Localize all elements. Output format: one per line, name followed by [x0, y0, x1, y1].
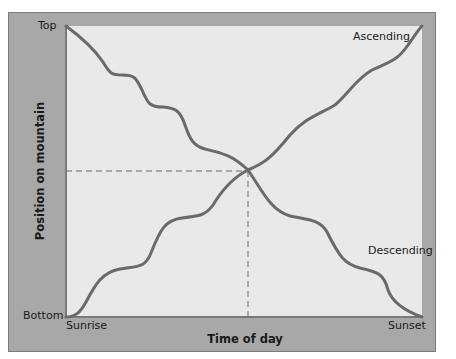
y-tick-bottom: Bottom — [23, 310, 63, 321]
x-axis-title: Time of day — [207, 334, 283, 346]
ascending-label: Ascending — [353, 31, 410, 42]
x-tick-sunset: Sunset — [388, 320, 426, 331]
y-tick-top: Top — [38, 20, 57, 31]
descending-label: Descending — [368, 245, 433, 256]
y-axis-title: Position on mountain — [35, 102, 47, 240]
chart-curves — [0, 0, 456, 359]
x-tick-sunrise: Sunrise — [66, 320, 107, 331]
